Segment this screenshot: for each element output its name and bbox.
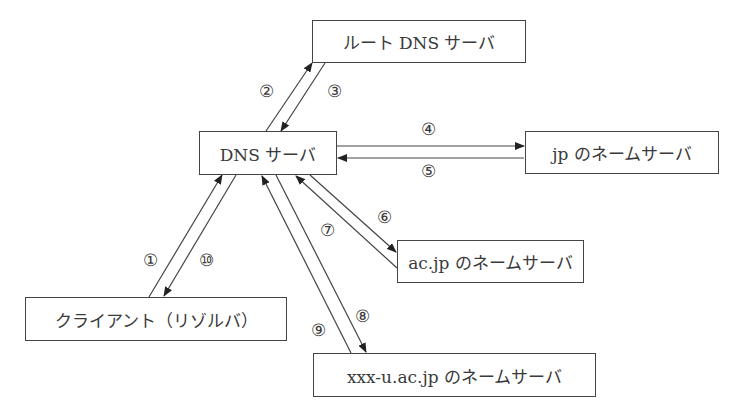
arrow-step-3: [281, 63, 325, 131]
node-dns-server: DNS サーバ: [199, 131, 337, 175]
step-label-4: ④: [421, 121, 436, 138]
node-xxx-u-acjp-name-server: xxx-u.ac.jp のネームサーバ: [313, 353, 596, 397]
arrow-step-1: [149, 175, 222, 297]
step-label-3: ③: [327, 83, 342, 100]
arrow-step-10: [164, 175, 236, 296]
node-acjp-name-server: ac.jp のネームサーバ: [397, 240, 584, 283]
node-root-dns-server: ルート DNS サーバ: [312, 20, 526, 63]
step-label-2: ②: [259, 83, 274, 100]
step-label-7: ⑦: [320, 222, 335, 239]
step-label-1: ①: [143, 252, 158, 269]
step-label-8: ⑧: [355, 308, 370, 325]
node-jp-name-server: jp のネームサーバ: [525, 131, 719, 174]
node-client-resolver: クライアント（リゾルバ）: [25, 297, 287, 341]
step-label-5: ⑤: [421, 163, 436, 180]
step-label-9: ⑨: [311, 322, 326, 339]
step-label-6: ⑥: [377, 209, 392, 226]
step-label-10: ⑩: [199, 252, 214, 269]
